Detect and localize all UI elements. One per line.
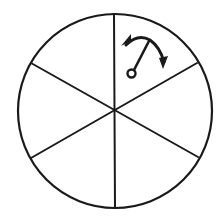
wheel-svg <box>0 0 218 221</box>
anchor-icon <box>121 34 168 78</box>
segment-dividers <box>31 14 198 208</box>
spinner-wheel: Anchor Spade Club <box>0 0 218 221</box>
segment-anchor <box>121 34 168 78</box>
